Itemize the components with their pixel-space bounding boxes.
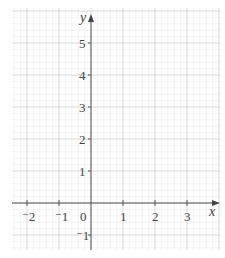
coordinate-grid: y x ⁻2 ⁻1 0 1 2 3 ⁻1 1 2 3 4 5 [0,0,225,258]
x-tick-label: 3 [184,209,191,224]
y-tick-label: ⁻1 [76,228,89,243]
y-axis-label: y [78,10,87,25]
x-axis-label: x [208,204,216,219]
y-axis-arrow-icon [88,14,94,22]
x-tick-label: 2 [152,209,159,224]
y-tick-label: 3 [79,100,86,115]
x-tick-label: ⁻2 [22,209,35,224]
y-tick-label: 2 [79,132,86,147]
origin-label: 0 [80,209,87,224]
y-tick-label: 4 [79,68,86,83]
y-tick-label: 5 [79,36,86,51]
x-tick-label: ⁻1 [55,209,68,224]
x-tick-label: 1 [120,209,127,224]
y-tick-label: 1 [79,164,86,179]
